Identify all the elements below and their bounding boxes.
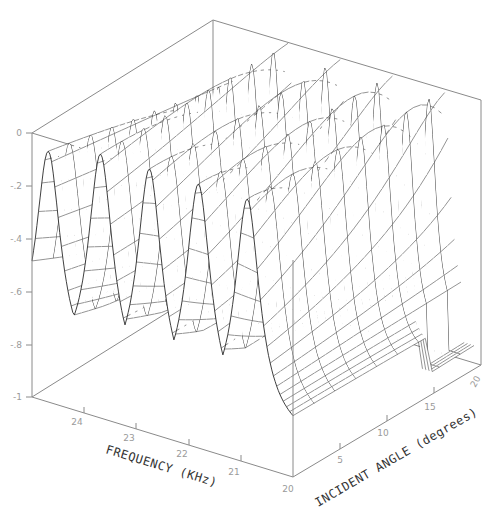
wireframe-surface xyxy=(32,43,474,415)
angle-tick-label: 10 xyxy=(377,428,389,438)
z-tick-label: -1 xyxy=(13,392,22,402)
frequency-axis-ticks: 24 23 22 21 20 FREQUENCY (KHz) xyxy=(71,407,294,494)
frequency-tick-label: 21 xyxy=(228,467,239,477)
z-tick-label: 0 xyxy=(16,128,22,138)
frequency-tick-label: 23 xyxy=(123,433,134,443)
frequency-tick-label: 20 xyxy=(282,484,294,494)
angle-tick-label: 5 xyxy=(337,455,343,465)
frequency-tick-label: 24 xyxy=(71,417,83,427)
angle-axis-ticks: 5 10 15 20 INCIDENT ANGLE (degrees) xyxy=(313,374,483,510)
z-tick-label: -.6 xyxy=(10,287,22,297)
z-tick-label: -.4 xyxy=(10,234,22,244)
frequency-tick-label: 22 xyxy=(176,449,187,459)
z-tick-label: -.8 xyxy=(10,340,22,350)
z-tick-label: -.2 xyxy=(10,181,22,191)
z-axis-ticks: 0 -.2 -.4 -.6 -.8 -1 xyxy=(10,128,32,402)
angle-tick-label: 15 xyxy=(424,402,435,412)
angle-tick-label: 20 xyxy=(468,374,483,389)
surface-plot: 0 -.2 -.4 -.6 -.8 -1 24 23 22 21 20 FREQ… xyxy=(0,0,498,523)
frequency-axis-title: FREQUENCY (KHz) xyxy=(104,442,219,489)
